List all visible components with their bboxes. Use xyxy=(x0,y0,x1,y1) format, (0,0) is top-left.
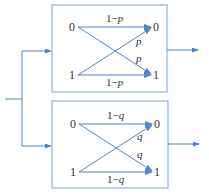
input-node-1: 1 xyxy=(70,165,76,179)
label-top-straight: 1−q xyxy=(107,109,125,121)
label-cross-lower: q xyxy=(137,148,143,160)
label-top-straight: 1−p xyxy=(106,12,124,24)
label-cross-upper: q xyxy=(137,130,143,142)
input-node-1: 1 xyxy=(69,68,75,82)
input-node-0: 0 xyxy=(70,117,76,131)
label-cross-upper: p xyxy=(135,35,142,47)
channel-box-q: 0 1 0 1 1−q 1−q q q xyxy=(52,101,168,188)
input-node-0: 0 xyxy=(69,20,75,34)
label-bottom-straight: 1−p xyxy=(106,76,124,88)
parallel-binary-channels-diagram: 0 1 0 1 1−p 1−p p p 0 1 0 1 1−q 1−q q q xyxy=(0,0,209,194)
input-splitter xyxy=(5,51,51,146)
output-node-1: 1 xyxy=(153,68,159,82)
channel-box-p: 0 1 0 1 1−p 1−p p p xyxy=(52,5,167,92)
output-node-1: 1 xyxy=(154,165,160,179)
output-node-0: 0 xyxy=(154,117,160,131)
output-node-0: 0 xyxy=(153,20,159,34)
label-bottom-straight: 1−q xyxy=(107,173,125,185)
label-cross-lower: p xyxy=(135,52,142,64)
